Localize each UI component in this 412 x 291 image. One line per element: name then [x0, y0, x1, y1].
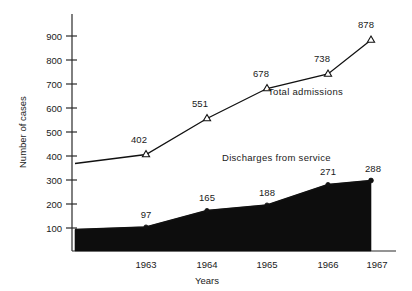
y-axis-title: Number of cases	[17, 96, 28, 168]
data-label-402: 402	[131, 134, 147, 145]
y-tick-label-100: 100	[46, 223, 62, 234]
y-tick-label-900: 900	[46, 31, 62, 42]
chart-canvas: 900 800 700 600 500 400 300 200 100 Numb…	[0, 0, 412, 291]
series-label-admissions: Total admissions	[268, 86, 343, 97]
data-label-678: 678	[253, 68, 269, 79]
x-axis-title: Years	[195, 275, 219, 286]
series-label-discharges: Discharges from service	[222, 152, 331, 163]
data-point-marker	[369, 178, 374, 183]
data-label-288: 288	[365, 163, 381, 174]
y-tick-label-700: 700	[46, 79, 62, 90]
chart-figure: 900 800 700 600 500 400 300 200 100 Numb…	[0, 0, 412, 291]
data-label-271: 271	[320, 166, 336, 177]
x-tick-label-1963: 1963	[135, 259, 156, 270]
data-label-165: 165	[199, 192, 215, 203]
data-label-878: 878	[358, 19, 374, 30]
data-point-marker	[367, 36, 374, 42]
x-tick-label-1967: 1967	[366, 259, 387, 270]
discharges-filled-region	[75, 181, 371, 252]
data-label-738: 738	[314, 53, 330, 64]
y-tick-label-300: 300	[46, 175, 62, 186]
y-tick-label-200: 200	[46, 199, 62, 210]
data-point-marker	[324, 70, 331, 76]
x-tick-label-1965: 1965	[256, 259, 277, 270]
y-tick-label-800: 800	[46, 55, 62, 66]
data-label-97: 97	[141, 209, 152, 220]
data-point-marker	[326, 182, 330, 186]
y-tick-label-600: 600	[46, 103, 62, 114]
discharges-area-series	[75, 181, 371, 252]
data-label-551: 551	[192, 98, 208, 109]
y-tick-label-400: 400	[46, 151, 62, 162]
x-tick-label-1964: 1964	[196, 259, 217, 270]
x-tick-label-1966: 1966	[317, 259, 338, 270]
data-label-188: 188	[259, 187, 275, 198]
data-point-marker	[205, 208, 209, 212]
data-point-marker	[144, 225, 148, 229]
y-tick-label-500: 500	[46, 127, 62, 138]
data-point-marker	[265, 203, 269, 207]
